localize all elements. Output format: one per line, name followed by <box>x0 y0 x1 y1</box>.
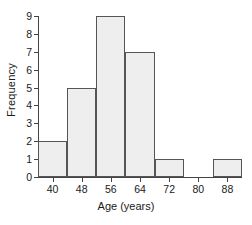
x-tick-label: 40 <box>47 184 59 195</box>
y-tick-label: 6 <box>26 64 32 75</box>
y-tick-label: 5 <box>26 82 32 93</box>
x-tick-mark <box>169 178 170 182</box>
y-tick-mark <box>34 88 38 89</box>
x-tick-label: 64 <box>134 184 146 195</box>
x-tick-mark <box>227 178 228 182</box>
x-tick-label: 72 <box>163 184 175 195</box>
plot-area: 0123456789 40485664728088 <box>38 16 242 178</box>
y-tick-label: 3 <box>26 118 32 129</box>
histogram-bar <box>38 141 67 177</box>
y-tick-mark <box>34 34 38 35</box>
y-tick-mark <box>34 105 38 106</box>
histogram-bar <box>125 52 154 177</box>
histogram-bar <box>213 159 242 177</box>
x-tick-mark <box>140 178 141 182</box>
x-axis-title-text: Age (years) <box>98 200 155 212</box>
y-tick-mark <box>34 16 38 17</box>
x-tick-label: 56 <box>105 184 117 195</box>
x-tick-mark <box>198 178 199 182</box>
y-tick-label: 7 <box>26 47 32 58</box>
x-tick-label: 48 <box>76 184 88 195</box>
y-tick-mark <box>34 52 38 53</box>
x-tick-label: 88 <box>222 184 234 195</box>
y-tick-label: 2 <box>26 136 32 147</box>
x-tick-mark <box>82 178 83 182</box>
y-axis-title-text: Frequency <box>5 63 17 117</box>
histogram-figure: Frequency 0123456789 40485664728088 Age … <box>0 0 252 225</box>
y-axis-title: Frequency <box>2 0 20 180</box>
x-tick-label: 80 <box>192 184 204 195</box>
y-tick-mark <box>34 177 38 178</box>
x-tick-mark <box>53 178 54 182</box>
x-axis-title: Age (years) <box>0 200 252 212</box>
histogram-bar <box>155 159 184 177</box>
x-tick-mark <box>111 178 112 182</box>
histogram-bar <box>96 16 125 177</box>
y-tick-mark <box>34 70 38 71</box>
histogram-bar <box>67 88 96 177</box>
y-tick-label: 1 <box>26 154 32 165</box>
y-tick-label: 8 <box>26 29 32 40</box>
y-tick-label: 0 <box>26 172 32 183</box>
y-tick-label: 4 <box>26 100 32 111</box>
y-tick-mark <box>34 123 38 124</box>
y-tick-label: 9 <box>26 11 32 22</box>
